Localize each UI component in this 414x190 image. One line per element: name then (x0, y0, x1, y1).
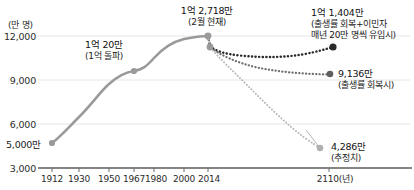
series-historical-line (52, 36, 208, 143)
x-tick-1967: 1967 (123, 174, 145, 185)
population-projection-chart: (만 명) 12,000 9,000 6,000 3,000 1912 1930… (0, 0, 414, 190)
series-recovery-line (208, 36, 330, 75)
annotation-hundred-million-sublabel: (1억 돌파) (85, 51, 123, 62)
annotation-start-point-label: 5,000만 (6, 139, 41, 150)
y-tick-3000: 3,000 (0, 163, 36, 174)
annotation-estimate-label: 4,286만 (331, 141, 366, 152)
x-tick-1980: 1980 (145, 174, 167, 185)
annotation-current-peak-sublabel: (2월 현재) (188, 17, 226, 28)
x-tick-2000: 2000 (173, 174, 195, 185)
annotation-current-peak-label: 1억 2,718만 (181, 5, 233, 16)
annotation-recovery-immigration-sublabel: (출생률 회복+이민자 (311, 19, 387, 30)
x-tick-1930: 1930 (68, 174, 90, 185)
series-estimate-line (208, 36, 320, 148)
annotation-recovery-immigration-label: 1억 1,404만 (311, 7, 363, 18)
estimate-leader-line (306, 130, 320, 148)
annotation-hundred-million-label: 1억 20만 (85, 39, 123, 50)
y-tick-12000: 12,000 (0, 31, 36, 42)
y-tick-6000: 6,000 (0, 119, 36, 130)
annotation-estimate-sublabel: (추정치) (331, 153, 361, 164)
y-axis-unit-label: (만 명) (8, 20, 33, 31)
x-tick-1912: 1912 (41, 174, 63, 185)
y-tick-9000: 9,000 (0, 75, 36, 86)
annotation-recovery-label: 9,136만 (338, 68, 373, 79)
x-tick-2110: 2110(년) (317, 174, 354, 185)
x-tick-2014: 2014 (198, 174, 220, 185)
annotation-recovery-immigration-sublabel2: 매년 20만 명씩 유입시) (311, 30, 396, 41)
annotation-recovery-sublabel: (출생률 회복시) (338, 80, 394, 91)
x-tick-1950: 1950 (98, 174, 120, 185)
